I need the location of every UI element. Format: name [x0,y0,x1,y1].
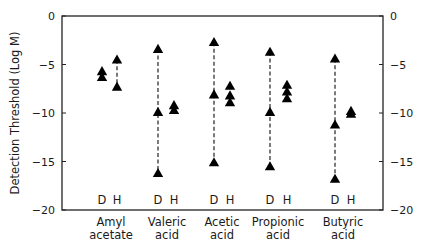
category-label-line2: acid [266,228,290,242]
left-tick-label: −20 [32,204,55,217]
right-y-axis: 0−5−10−15−20 [379,10,413,217]
group-label-h: H [283,193,292,207]
group-label-h: H [170,193,179,207]
left-tick-label: 0 [48,10,55,23]
category-label-line1: Propionic [252,215,305,229]
triangle-marker-icon [265,107,275,116]
detection-threshold-chart: 0−5−10−15−20 0−5−10−15−20 DHDHDHDHDH Amy… [0,0,425,250]
group-label-d: D [266,193,275,207]
left-y-axis: 0−5−10−15−20 [32,10,66,217]
triangle-marker-icon [330,174,340,183]
category-label-line2: acetate [89,228,133,242]
triangle-marker-icon [112,54,122,63]
group-label-d: D [98,193,107,207]
right-tick-label: −10 [390,107,413,120]
category-label-line1: Butyric [323,215,364,229]
triangle-marker-icon [209,37,219,46]
group-label-d: D [331,193,340,207]
left-tick-label: −10 [32,107,55,120]
category-label-line1: Acetic [204,215,239,229]
right-tick-label: −5 [390,59,406,72]
y-axis-title: Detection Threshold (Log M) [8,32,22,195]
triangle-marker-icon [209,89,219,98]
group-label-h: H [113,193,122,207]
category-label-line2: acid [210,228,234,242]
triangle-marker-icon [330,119,340,128]
triangle-marker-icon [112,82,122,91]
right-tick-label: −15 [390,156,413,169]
category-label-line2: acid [331,228,355,242]
group-label-h: H [226,193,235,207]
category-label-line1: Amyl [96,215,125,229]
group-label-d: D [154,193,163,207]
triangle-marker-icon [153,44,163,53]
left-tick-label: −15 [32,156,55,169]
group-label-h: H [347,193,356,207]
triangle-marker-icon [153,107,163,116]
triangle-marker-icon [169,105,179,114]
triangle-marker-icon [225,81,235,90]
triangle-marker-icon [265,161,275,170]
category-labels: AmylacetateValericacidAceticacidPropioni… [89,215,363,242]
right-tick-label: −20 [390,204,413,217]
triangle-marker-icon [209,157,219,166]
right-tick-label: 0 [390,10,397,23]
group-labels: DHDHDHDHDH [98,193,356,207]
category-label-line1: Valeric [148,215,187,229]
left-tick-label: −5 [39,59,55,72]
triangle-marker-icon [265,47,275,56]
group-label-d: D [210,193,219,207]
dashed-range-lines [117,42,335,179]
triangle-marker-icon [330,53,340,62]
category-label-line2: acid [155,228,179,242]
data-markers [97,37,356,183]
triangle-marker-icon [153,168,163,177]
